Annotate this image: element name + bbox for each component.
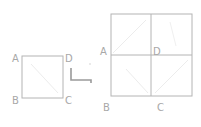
right-label-b: B [103, 102, 110, 113]
arrow-dot [89, 63, 91, 65]
right-faint-diagonal-br [155, 60, 188, 93]
right-square: A D B C [100, 14, 192, 113]
left-square: A D B C [12, 53, 73, 106]
left-label-c: C [65, 95, 72, 106]
arrow-path [71, 68, 91, 83]
right-faint-diagonal-tl [113, 20, 146, 53]
left-label-b: B [12, 95, 19, 106]
right-label-c: C [157, 102, 164, 113]
right-faint-mark-tr [170, 22, 176, 46]
diagram-canvas: A D B C A D B C [0, 0, 201, 127]
left-label-d: D [65, 53, 73, 64]
l-shaped-arrow-icon [71, 63, 91, 83]
right-faint-diagonal-bl [126, 69, 148, 93]
left-label-a: A [12, 53, 19, 64]
left-square-faint-diagonal [31, 64, 58, 93]
right-label-a: A [100, 46, 107, 57]
right-label-d: D [153, 46, 161, 57]
